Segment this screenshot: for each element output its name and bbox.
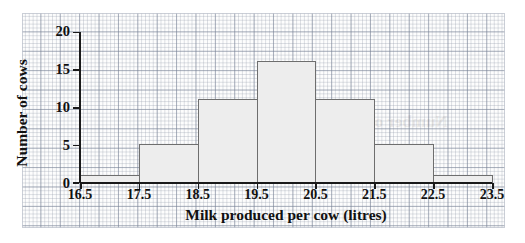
- y-axis-tick: [73, 32, 79, 34]
- x-axis-line: [80, 182, 492, 184]
- y-axis-line: [79, 32, 81, 183]
- histogram-figure: Milk produced per cow Number of cows 0 5…: [0, 0, 525, 243]
- y-axis-title: Number of cows: [13, 43, 31, 183]
- x-axis-tick-label: 22.5: [406, 188, 460, 202]
- histogram-bar: [139, 144, 199, 183]
- y-axis-tick-label: 10: [30, 100, 70, 115]
- y-axis-tick: [73, 107, 79, 109]
- y-axis-tick-label: 5: [30, 138, 70, 153]
- x-axis-tick-label: 21.5: [347, 188, 401, 202]
- y-axis-tick-label: 15: [30, 62, 70, 77]
- y-axis-tick-label: 20: [30, 24, 70, 39]
- x-axis-tick-label: 18.5: [171, 188, 225, 202]
- histogram-bar: [315, 99, 375, 184]
- histogram-bar: [257, 61, 317, 183]
- histogram-bar: [198, 99, 258, 184]
- y-axis-tick: [73, 69, 79, 71]
- plot-area: Milk produced per cow Number of cows 0 5…: [0, 0, 525, 243]
- x-axis-tick-label: 23.5: [465, 188, 519, 202]
- histogram-bar: [374, 144, 434, 183]
- y-axis-tick: [73, 145, 79, 147]
- y-axis-tick: [73, 182, 79, 184]
- x-axis-tick-label: 20.5: [288, 188, 342, 202]
- x-axis-tick-label: 16.5: [53, 188, 107, 202]
- x-axis-title: Milk produced per cow (litres): [80, 206, 492, 224]
- x-axis-tick-label: 19.5: [230, 188, 284, 202]
- x-axis-tick-label: 17.5: [112, 188, 166, 202]
